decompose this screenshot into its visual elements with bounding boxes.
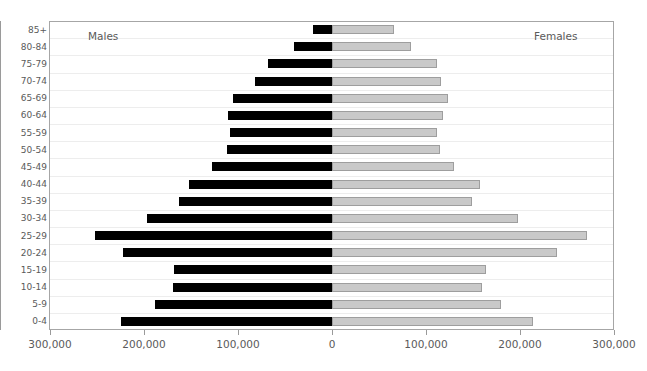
y-axis-tick-label: 5-9	[3, 299, 47, 309]
y-axis-tick-label: 10-14	[3, 282, 47, 292]
x-axis-tick-mark	[144, 330, 145, 335]
gridline-horizontal	[50, 193, 613, 194]
gridline-horizontal	[50, 107, 613, 108]
y-axis-tick-label: 65-69	[3, 93, 47, 103]
series-caption-males: Males	[88, 30, 118, 42]
y-axis-tick-label: 80-84	[3, 42, 47, 52]
x-axis-tick-label: 100,000	[386, 338, 466, 351]
y-axis-tick-label: 45-49	[3, 162, 47, 172]
y-axis-tick-label: 50-54	[3, 145, 47, 155]
population-pyramid-chart: 85+80-8475-7970-7465-6960-6455-5950-5445…	[0, 0, 647, 371]
x-axis-tick-mark	[426, 330, 427, 335]
y-axis-tick-label: 25-29	[3, 231, 47, 241]
gridline-horizontal	[50, 158, 613, 159]
y-axis-tick-label: 30-34	[3, 213, 47, 223]
gridline-horizontal	[50, 210, 613, 211]
series-caption-females: Females	[534, 30, 577, 42]
gridline-horizontal	[50, 55, 613, 56]
gridline-horizontal	[50, 261, 613, 262]
gridline-horizontal	[50, 73, 613, 74]
plot-area	[49, 21, 614, 330]
gridline-horizontal	[50, 90, 613, 91]
x-axis-tick-mark	[614, 330, 615, 335]
y-axis-age-groups: 85+80-8475-7970-7465-6960-6455-5950-5445…	[0, 21, 47, 330]
gridline-horizontal	[50, 124, 613, 125]
gridline-horizontal	[50, 313, 613, 314]
x-axis-tick-mark	[238, 330, 239, 335]
x-axis-tick-mark	[332, 330, 333, 335]
y-axis-tick-label: 20-24	[3, 248, 47, 258]
x-axis-tick-label: 0	[292, 338, 372, 351]
y-axis-tick-label: 60-64	[3, 110, 47, 120]
y-axis-tick-label: 40-44	[3, 179, 47, 189]
x-axis-tick-mark	[520, 330, 521, 335]
gridline-horizontal	[50, 296, 613, 297]
gridline-horizontal	[50, 279, 613, 280]
gridline-horizontal	[50, 141, 613, 142]
y-axis-tick-label: 70-74	[3, 76, 47, 86]
y-axis-tick-label: 0-4	[3, 316, 47, 326]
y-axis-tick-label: 55-59	[3, 128, 47, 138]
x-axis-tick-label: 200,000	[104, 338, 184, 351]
gridline-horizontal	[50, 38, 613, 39]
y-axis-tick-label: 85+	[3, 25, 47, 35]
gridline-horizontal	[50, 227, 613, 228]
gridline-horizontal	[50, 176, 613, 177]
x-axis-tick-label: 200,000	[480, 338, 560, 351]
y-axis-tick-label: 15-19	[3, 265, 47, 275]
y-axis-tick-label: 35-39	[3, 196, 47, 206]
x-axis-tick-label: 300,000	[574, 338, 647, 351]
gridline-horizontal	[50, 244, 613, 245]
x-axis-tick-label: 100,000	[198, 338, 278, 351]
x-axis-tick-mark	[50, 330, 51, 335]
x-axis-tick-label: 300,000	[10, 338, 90, 351]
y-axis-tick-label: 75-79	[3, 59, 47, 69]
